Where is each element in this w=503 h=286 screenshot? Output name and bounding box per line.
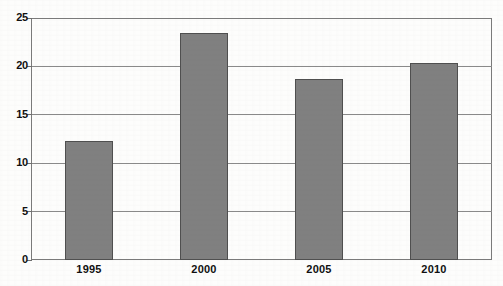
bar-2010 xyxy=(410,63,458,260)
bar-2000 xyxy=(180,33,228,260)
bar-1995 xyxy=(65,141,113,260)
x-tick-label-2010: 2010 xyxy=(389,264,479,275)
x-tick-label-2000: 2000 xyxy=(159,264,249,275)
bar-chart: 0510152025 1995200020052010 xyxy=(0,0,503,286)
x-tick-label-2005: 2005 xyxy=(274,264,364,275)
y-tick-label: 25 xyxy=(2,12,28,23)
y-tick-label: 0 xyxy=(2,254,28,265)
y-tick-label: 20 xyxy=(2,60,28,71)
x-tick-label-1995: 1995 xyxy=(44,264,134,275)
y-tick-label: 10 xyxy=(2,157,28,168)
bar-2005 xyxy=(295,79,343,260)
y-tick-label: 15 xyxy=(2,109,28,120)
y-tick-label: 5 xyxy=(2,206,28,217)
